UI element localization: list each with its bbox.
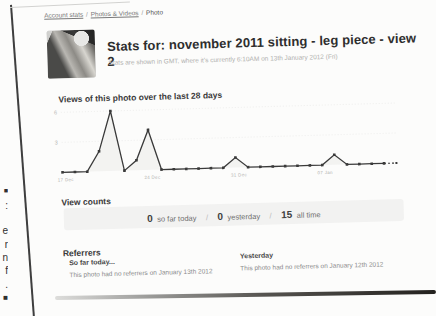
referrers-yesterday-text: This photo had no referrers on January 1… [240, 260, 410, 272]
breadcrumb-separator: / [140, 9, 144, 16]
views-chart-svg: 3617 Dec24 Dec31 Dec07 Jan [51, 95, 405, 187]
view-counts-bar: 0 so far today / 0 yesterday / 15 all ti… [64, 199, 404, 230]
views-chart: 3617 Dec24 Dec31 Dec07 Jan [51, 95, 405, 187]
breadcrumb-current-photo: Photo [146, 8, 163, 15]
count-yesterday-value: 0 [217, 211, 223, 222]
svg-text:07 Jan: 07 Jan [317, 170, 333, 175]
svg-text:6: 6 [54, 109, 57, 115]
count-alltime-label: all time [297, 210, 321, 220]
referrers-today-column: So far today... This photo had no referr… [69, 254, 239, 278]
svg-text:17 Dec: 17 Dec [58, 177, 75, 182]
referrers-today-text: This photo had no referrers on January 1… [69, 266, 239, 278]
breadcrumb-link-photos-videos[interactable]: Photos & Videos [91, 9, 139, 17]
count-today-value: 0 [147, 213, 153, 224]
stats-page: Account stats / Photos & Videos / Photo … [0, 0, 436, 310]
count-separator: / [201, 213, 213, 222]
count-alltime-value: 15 [281, 209, 292, 220]
svg-text:3: 3 [55, 139, 58, 145]
count-separator: / [264, 211, 276, 220]
svg-text:31 Dec: 31 Dec [231, 172, 248, 177]
breadcrumb: Account stats / Photos & Videos / Photo [44, 8, 163, 18]
photo-thumbnail[interactable] [47, 29, 96, 78]
count-today-label: so far today [157, 214, 196, 224]
referrers-yesterday-title: Yesterday [240, 248, 410, 260]
referrers-heading: Referrers [63, 247, 101, 258]
breadcrumb-separator: / [85, 11, 89, 18]
referrers-yesterday-column: Yesterday This photo had no referrers on… [240, 248, 410, 272]
breadcrumb-link-account-stats[interactable]: Account stats [44, 11, 83, 19]
svg-text:24 Dec: 24 Dec [144, 175, 161, 180]
count-yesterday-label: yesterday [227, 212, 260, 222]
view-counts-heading: View counts [61, 196, 111, 207]
